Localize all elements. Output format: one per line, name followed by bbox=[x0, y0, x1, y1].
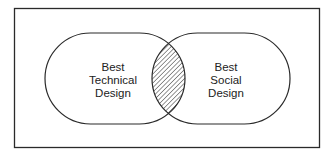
right-set-label: Best Social Design bbox=[196, 61, 256, 100]
left-label-line-3: Design bbox=[78, 87, 148, 100]
right-label-line-3: Design bbox=[196, 87, 256, 100]
left-label-line-2: Technical bbox=[78, 74, 148, 87]
left-label-line-1: Best bbox=[78, 61, 148, 74]
venn-diagram bbox=[0, 0, 332, 157]
left-set-label: Best Technical Design bbox=[78, 61, 148, 100]
right-label-line-2: Social bbox=[196, 74, 256, 87]
right-label-line-1: Best bbox=[196, 61, 256, 74]
